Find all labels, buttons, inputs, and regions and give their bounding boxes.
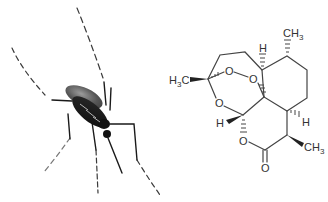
molecule-structure-icon: CH3 H H3C O O O H H O O CH3 [150,0,328,202]
h-acetal-label: H [216,117,224,129]
ch3-right-label: CH3 [304,141,325,156]
artemisinin-structure: CH3 H H3C O O O H H O O CH3 [150,0,328,202]
h3c-label: H3C [169,74,189,89]
mosquito-icon [0,0,170,202]
h-top-label: H [259,42,267,54]
o-peroxide-2-label: O [249,73,258,85]
o-carbonyl-label: O [261,162,270,174]
h-right-label: H [302,116,310,128]
mosquito-image [0,0,170,202]
o-ring-label: O [215,97,224,109]
o-peroxide-1-label: O [225,65,234,77]
o-lactone-label: O [239,135,248,147]
